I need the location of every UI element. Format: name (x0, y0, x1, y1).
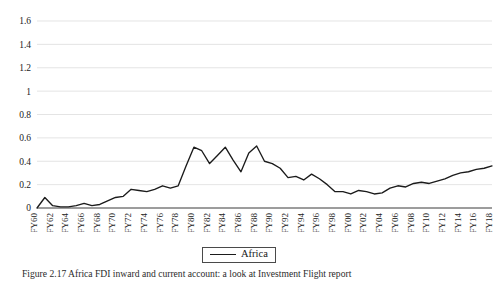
x-axis-tick-label: FY84 (217, 213, 227, 232)
x-axis-tick-label: FY06 (390, 213, 400, 232)
x-axis-tick-label: FY18 (484, 213, 494, 232)
x-axis-tick-label: FY90 (264, 213, 274, 232)
x-axis-tick-label: FY78 (170, 213, 180, 232)
x-axis-tick-label: FY74 (139, 213, 149, 232)
x-axis-tick-label: FY60 (29, 213, 39, 232)
legend-label-africa: Africa (241, 249, 268, 260)
x-axis-tick-label: FY94 (296, 213, 306, 232)
line-chart: 00.20.40.60.811.21.41.6FY60FY62FY64FY66F… (0, 0, 500, 232)
x-axis-tick-label: FY72 (123, 213, 133, 232)
figure-container: 00.20.40.60.811.21.41.6FY60FY62FY64FY66F… (0, 0, 500, 281)
x-axis-tick-label: FY62 (45, 213, 55, 232)
x-axis-tick-label: FY16 (468, 213, 478, 232)
x-axis-tick-label: FY10 (421, 213, 431, 232)
y-axis-tick-label: 0.4 (19, 157, 31, 167)
x-axis-tick-label: FY70 (107, 213, 117, 232)
x-axis-tick-label: FY66 (76, 213, 86, 232)
y-axis-tick-label: 1.6 (19, 16, 31, 26)
x-axis-tick-label: FY80 (186, 213, 196, 232)
y-axis-tick-label: 0.2 (19, 180, 31, 190)
x-axis-tick-label: FY76 (155, 213, 165, 232)
data-series-africa (37, 146, 492, 208)
y-axis-tick-label: 0.8 (19, 110, 31, 120)
x-axis-tick-label: FY02 (358, 213, 368, 232)
chart-plot-area: 00.20.40.60.811.21.41.6FY60FY62FY64FY66F… (0, 0, 500, 232)
x-axis-tick-label: FY88 (249, 213, 259, 232)
figure-caption: Figure 2.17 Africa FDI inward and curren… (22, 268, 484, 280)
y-axis-tick-label: 1.2 (19, 63, 31, 73)
y-axis-tick-label: 1.4 (19, 40, 31, 50)
x-axis-tick-label: FY96 (311, 213, 321, 232)
x-axis-tick-label: FY00 (343, 213, 353, 232)
x-axis-tick-label: FY64 (60, 213, 70, 232)
x-axis-tick-label: FY14 (453, 213, 463, 232)
x-axis-tick-label: FY92 (280, 213, 290, 232)
x-axis-tick-label: FY86 (233, 213, 243, 232)
x-axis-tick-label: FY12 (437, 213, 447, 232)
x-axis-tick-label: FY04 (374, 213, 384, 232)
x-axis-tick-label: FY68 (92, 213, 102, 232)
legend-line-swatch-icon (210, 254, 236, 255)
x-axis-tick-label: FY08 (406, 213, 416, 232)
y-axis-tick-label: 0 (26, 203, 31, 213)
y-axis-tick-label: 1 (26, 87, 31, 97)
x-axis-tick-label: FY98 (327, 213, 337, 232)
chart-legend: Africa (202, 247, 276, 263)
x-axis-tick-label: FY82 (202, 213, 212, 232)
y-axis-tick-label: 0.6 (19, 133, 31, 143)
